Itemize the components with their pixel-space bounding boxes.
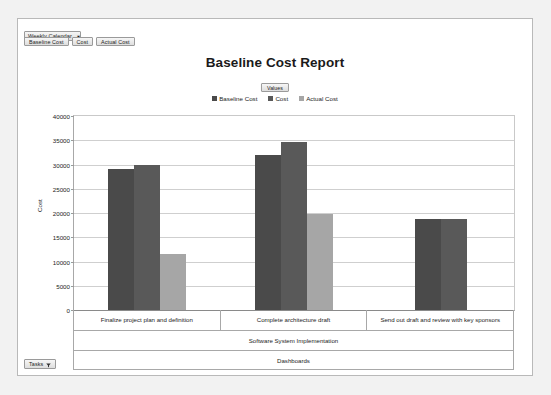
- y-axis-tick-label: 15000: [53, 234, 70, 241]
- bar-group: [108, 116, 186, 310]
- category-slot: [74, 116, 221, 310]
- category-root-axis: Dashboards: [73, 351, 514, 370]
- y-axis-tick-label: 0: [67, 307, 70, 314]
- y-axis-tick-label: 40000: [53, 113, 70, 120]
- y-axis-tick-label: 10000: [53, 258, 70, 265]
- category-axis-label: Send out draft and review with key spons…: [367, 310, 514, 331]
- bar[interactable]: [281, 142, 307, 310]
- bar[interactable]: [307, 214, 333, 310]
- bar[interactable]: [134, 165, 160, 311]
- y-axis-tick-label: 20000: [53, 210, 70, 217]
- bars-layer: [74, 116, 514, 310]
- category-axis-label: Finalize project plan and definition: [73, 310, 221, 331]
- funnel-icon: [46, 362, 51, 367]
- category-axis: Finalize project plan and definitionComp…: [73, 310, 514, 331]
- category-slot: [221, 116, 368, 310]
- tasks-filter-button[interactable]: Tasks: [24, 359, 56, 369]
- bar-group: [415, 116, 467, 310]
- bar-group: [255, 116, 333, 310]
- category-slot: [367, 116, 514, 310]
- plot-wrapper: Cost 05000100001500020000250003000035000…: [18, 19, 534, 375]
- category-axis-label: Complete architecture draft: [221, 310, 368, 331]
- bar[interactable]: [160, 254, 186, 310]
- y-axis-tick-label: 30000: [53, 161, 70, 168]
- plot-area: 0500010000150002000025000300003500040000: [73, 115, 515, 311]
- y-axis-tick-label: 35000: [53, 137, 70, 144]
- y-axis-tick-label: 5000: [56, 282, 70, 289]
- bar[interactable]: [441, 219, 467, 310]
- pivot-chart-card: Weekly Calendar ▼ Baseline Cost Cost Act…: [17, 18, 533, 376]
- bar[interactable]: [108, 169, 134, 310]
- y-axis-tick-label: 25000: [53, 185, 70, 192]
- application-window: Weekly Calendar ▼ Baseline Cost Cost Act…: [0, 0, 551, 395]
- bar[interactable]: [415, 219, 441, 310]
- y-axis-title: Cost: [36, 199, 43, 212]
- category-group-axis: Software System Implementation: [73, 331, 514, 351]
- tasks-filter-label: Tasks: [29, 360, 43, 368]
- bar[interactable]: [255, 155, 281, 310]
